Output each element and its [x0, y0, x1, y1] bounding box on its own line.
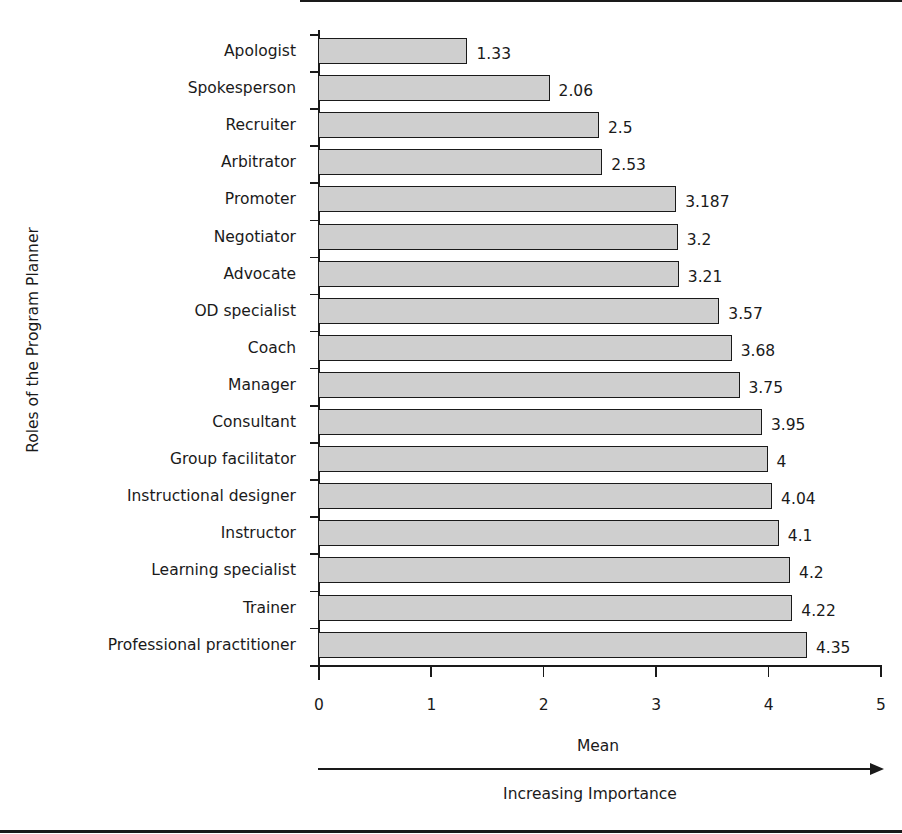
bar	[318, 261, 679, 287]
bar	[318, 298, 719, 324]
value-label: 3.57	[728, 305, 763, 323]
x-tick	[318, 665, 320, 677]
category-label: Instructional designer	[127, 487, 296, 505]
bar	[318, 224, 678, 250]
bar	[318, 409, 762, 435]
bar-chart: Roles of the Program Planner Apologist1.…	[0, 0, 902, 834]
x-axis-title: Mean	[577, 737, 619, 755]
bar	[318, 595, 792, 621]
arrow-right-icon	[870, 763, 884, 775]
y-tick	[310, 368, 319, 370]
x-tick-label: 5	[876, 696, 886, 714]
x-tick	[655, 665, 657, 677]
category-label: Consultant	[212, 413, 296, 431]
bar	[318, 372, 740, 398]
category-label: Learning specialist	[151, 561, 296, 579]
y-axis-title: Roles of the Program Planner	[24, 227, 42, 453]
value-label: 2.53	[611, 156, 646, 174]
x-tick	[430, 665, 432, 677]
importance-arrow-line	[318, 768, 874, 770]
y-tick	[310, 71, 319, 73]
value-label: 4	[777, 453, 787, 471]
category-label: Negotiator	[214, 228, 296, 246]
bottom-rule	[0, 830, 902, 833]
x-tick-label: 2	[539, 696, 549, 714]
x-axis-line	[310, 665, 881, 667]
bar	[318, 112, 599, 138]
value-label: 1.33	[476, 45, 511, 63]
x-tick-label: 0	[314, 696, 324, 714]
x-tick	[880, 665, 882, 677]
y-tick	[310, 442, 319, 444]
y-tick	[310, 294, 319, 296]
category-label: Group facilitator	[170, 450, 296, 468]
x-tick	[768, 665, 770, 677]
y-tick	[310, 628, 319, 630]
category-label: Spokesperson	[188, 79, 296, 97]
y-tick	[310, 145, 319, 147]
value-label: 4.1	[788, 527, 813, 545]
y-tick	[310, 405, 319, 407]
bar	[318, 75, 550, 101]
value-label: 2.06	[559, 82, 594, 100]
category-label: Manager	[228, 376, 296, 394]
y-tick	[310, 108, 319, 110]
category-label: Instructor	[221, 524, 296, 542]
x-tick-label: 4	[764, 696, 774, 714]
category-label: Apologist	[224, 42, 296, 60]
value-label: 2.5	[608, 119, 633, 137]
y-tick	[310, 331, 319, 333]
bar	[318, 520, 779, 546]
category-label: Coach	[248, 339, 296, 357]
category-label: Promoter	[225, 190, 296, 208]
x-tick-label: 3	[651, 696, 661, 714]
category-label: Professional practitioner	[108, 636, 296, 654]
y-tick	[310, 553, 319, 555]
y-tick	[310, 479, 319, 481]
x-tick	[543, 665, 545, 677]
value-label: 3.95	[771, 416, 806, 434]
bar	[318, 632, 807, 658]
value-label: 3.75	[749, 379, 784, 397]
importance-label: Increasing Importance	[503, 785, 677, 803]
x-tick-label: 1	[426, 696, 436, 714]
value-label: 3.187	[685, 193, 729, 211]
category-label: Advocate	[224, 265, 296, 283]
bar	[318, 483, 772, 509]
value-label: 3.21	[688, 268, 723, 286]
y-tick	[310, 257, 319, 259]
category-label: OD specialist	[194, 302, 296, 320]
bar	[318, 557, 790, 583]
value-label: 4.22	[801, 602, 836, 620]
bar	[318, 149, 602, 175]
y-tick	[310, 220, 319, 222]
y-tick	[310, 516, 319, 518]
y-tick	[310, 591, 319, 593]
value-label: 4.04	[781, 490, 816, 508]
y-tick	[310, 182, 319, 184]
y-tick	[310, 34, 319, 36]
category-label: Recruiter	[225, 116, 296, 134]
value-label: 4.35	[816, 639, 851, 657]
value-label: 3.68	[741, 342, 776, 360]
bar	[318, 186, 676, 212]
category-label: Trainer	[243, 599, 296, 617]
value-label: 3.2	[687, 231, 712, 249]
bar	[318, 38, 467, 64]
value-label: 4.2	[799, 564, 824, 582]
category-label: Arbitrator	[221, 153, 296, 171]
bar	[318, 335, 732, 361]
bar	[318, 446, 768, 472]
